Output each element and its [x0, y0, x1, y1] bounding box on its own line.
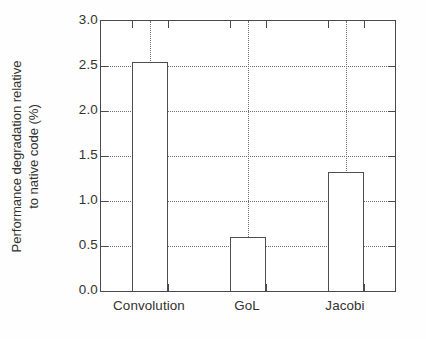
x-axis-tick-label: GoL	[234, 298, 260, 313]
y-axis-tick-label: 0.0	[58, 283, 98, 296]
y-axis-title: Performance degradation relative to nati…	[0, 0, 52, 312]
x-axis-tick-label: Convolution	[113, 298, 185, 313]
y-tick-mark-right	[388, 201, 395, 202]
y-axis-tick-label: 2.0	[58, 103, 98, 116]
y-axis-tick-labels: 0.00.51.01.52.02.53.0	[54, 0, 98, 339]
x-axis-tick-labels: ConvolutionGoLJacobi	[100, 298, 396, 324]
x-axis-tick-label: Jacobi	[325, 298, 364, 313]
x-tick-mark-top	[168, 21, 169, 28]
x-tick-mark-bottom	[364, 284, 365, 291]
y-tick-mark-left	[101, 156, 108, 157]
y-tick-mark-left	[101, 201, 108, 202]
y-tick-mark-left	[101, 66, 108, 67]
y-tick-mark-left	[101, 111, 108, 112]
y-axis-tick-label: 0.5	[58, 238, 98, 251]
y-axis-tick-label: 1.5	[58, 148, 98, 161]
x-tick-mark-bottom	[266, 284, 267, 291]
x-tick-mark-top	[364, 21, 365, 28]
bar-jacobi	[328, 172, 364, 291]
y-tick-mark-left	[101, 246, 108, 247]
y-tick-mark-right	[388, 66, 395, 67]
y-axis-tick-label: 1.0	[58, 193, 98, 206]
x-tick-mark-top	[132, 21, 133, 28]
plot-area	[100, 20, 396, 292]
x-tick-mark-top	[230, 21, 231, 28]
bar-chart-figure: Performance degradation relative to nati…	[0, 0, 426, 339]
y-axis-title-line-1: Performance degradation relative	[10, 60, 27, 252]
x-tick-mark-bottom	[168, 284, 169, 291]
bar-convolution	[132, 62, 168, 292]
y-tick-mark-right	[388, 246, 395, 247]
y-axis-tick-label: 2.5	[58, 58, 98, 71]
y-tick-mark-right	[388, 111, 395, 112]
y-axis-title-line-2: to native code (%)	[26, 60, 43, 252]
y-tick-mark-right	[388, 156, 395, 157]
x-tick-mark-top	[328, 21, 329, 28]
y-axis-tick-label: 3.0	[58, 13, 98, 26]
bar-gol	[230, 237, 266, 291]
x-tick-mark-top	[266, 21, 267, 28]
